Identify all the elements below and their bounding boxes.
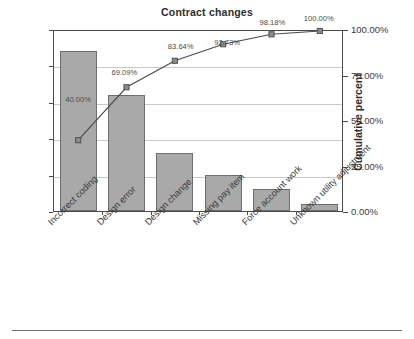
cumulative-marker [317,28,322,33]
data-point-label: 40.00% [65,95,91,104]
secondary-y-tick-mark [343,212,348,213]
data-point-label: 98.18% [260,18,286,27]
data-point-label: 69.09% [112,68,138,77]
cumulative-line [54,31,344,213]
y-tick-mark [49,139,53,140]
y-tick-mark [49,30,53,31]
y-tick-mark [49,176,53,177]
cumulative-marker [124,85,129,90]
secondary-y-tick-mark [343,76,348,77]
cumulative-marker [172,58,177,63]
secondary-y-tick-label: 100.00% [351,24,407,35]
data-point-label: 92.73% [214,38,240,47]
data-point-label: 83.64% [168,42,194,51]
plot-area [53,30,343,212]
secondary-y-tick-label: 50.00% [351,115,407,126]
cumulative-marker [76,138,81,143]
cumulative-marker [269,32,274,37]
bottom-divider [12,330,402,331]
secondary-y-tick-mark [343,121,348,122]
cumulative-polyline [78,31,320,140]
y-tick-mark [49,103,53,104]
chart-title: Contract changes [0,6,414,18]
data-point-label: 100.00% [304,14,334,23]
secondary-y-tick-label: 0.00% [351,206,407,217]
pareto-chart-figure: Contract changes Frequency Cumulative pe… [0,0,414,339]
secondary-y-tick-label: 75.00% [351,70,407,81]
y-tick-mark [49,66,53,67]
secondary-y-tick-mark [343,30,348,31]
